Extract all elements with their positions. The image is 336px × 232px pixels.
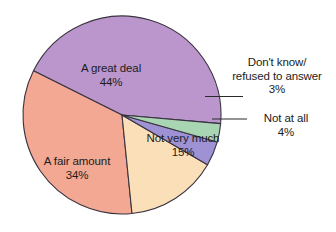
callout-label-dont-know: Don't know/ refused to answer 3% (218, 56, 336, 97)
callout-label-dont-know-line1: Don't know/ (218, 56, 336, 70)
callout-label-dont-know-percent: 3% (218, 83, 336, 97)
slice-label-great-deal-text: A great deal (52, 62, 170, 76)
slice-label-fair-amount-percent: 34% (16, 169, 138, 183)
callout-label-not-at-all-percent: 4% (243, 126, 329, 140)
slice-label-not-very-much: Not very much 15% (133, 132, 233, 159)
slice-label-not-very-much-percent: 15% (133, 146, 233, 160)
slice-label-fair-amount: A fair amount 34% (16, 155, 138, 182)
pie-chart: A great deal 44% A fair amount 34% Not v… (0, 0, 336, 232)
callout-label-not-at-all-text: Not at all (243, 112, 329, 126)
callout-label-dont-know-line2: refused to answer (218, 70, 336, 84)
slice-label-great-deal: A great deal 44% (52, 62, 170, 89)
slice-label-not-very-much-text: Not very much (133, 132, 233, 146)
slice-label-great-deal-percent: 44% (52, 76, 170, 90)
callout-label-not-at-all: Not at all 4% (243, 112, 329, 139)
slice-label-fair-amount-text: A fair amount (16, 155, 138, 169)
